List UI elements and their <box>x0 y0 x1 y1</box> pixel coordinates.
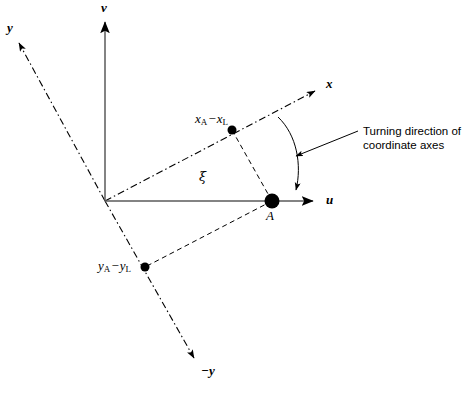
point-x-component-marker <box>228 126 237 135</box>
turning-direction-arc <box>278 117 298 190</box>
construction-lines-group <box>145 130 272 267</box>
x-axis-label: x <box>326 77 333 90</box>
turning-direction-callout-line2: coordinate axes <box>363 138 461 152</box>
x-component-label: xA − xL <box>195 112 228 125</box>
coordinate-rotation-diagram <box>0 0 468 394</box>
y-axis-line <box>19 43 105 201</box>
x-component-label-sub1: A <box>201 117 208 127</box>
turning-direction-callout: Turning direction of coordinate axes <box>363 124 461 152</box>
x-axis-line <box>105 91 315 201</box>
u-axis-label: u <box>326 193 333 206</box>
x-component-label-var1: x <box>195 111 201 126</box>
y-component-label-var2: y <box>120 258 126 273</box>
point-a-label: A <box>266 209 274 222</box>
turning-direction-callout-line1: Turning direction of <box>363 124 461 138</box>
y-component-label: yA − yL <box>98 259 131 272</box>
construction-line-x-to-a <box>232 130 272 201</box>
x-component-label-var2: x <box>217 111 223 126</box>
callout-leader-line <box>296 131 358 156</box>
v-axis-label: v <box>101 1 107 14</box>
x-component-label-minus: − <box>208 111 215 126</box>
figure-root: v u x y −y ξ A xA − xL yA − yL Turning d… <box>0 0 468 394</box>
y-component-label-var1: y <box>98 258 104 273</box>
rotation-angle-label: ξ <box>199 170 206 183</box>
turning-direction-arc-group <box>278 117 298 190</box>
point-a-marker <box>265 194 280 209</box>
construction-line-a-to-y <box>145 201 272 267</box>
minus-y-axis-line <box>105 201 194 358</box>
x-component-label-sub2: L <box>223 117 229 127</box>
y-component-label-sub2: L <box>126 264 132 274</box>
y-axis-label: y <box>7 21 13 34</box>
point-y-component-marker <box>141 263 150 272</box>
point-markers-group <box>141 126 280 272</box>
minus-y-axis-label: −y <box>201 364 215 377</box>
y-component-label-sub1: A <box>104 264 111 274</box>
y-component-label-minus: − <box>111 258 118 273</box>
